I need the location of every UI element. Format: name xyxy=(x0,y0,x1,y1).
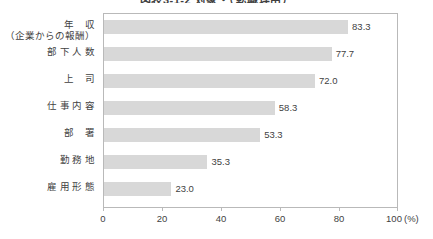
bar-value-shigoto-naiyo: 58.3 xyxy=(275,101,298,115)
bar-row: 83.3 xyxy=(104,20,397,34)
x-tick xyxy=(221,208,222,211)
x-tick xyxy=(103,208,104,211)
bar-chart-figure: 図表3-1-2 対象・（転職理由） 年収 （企業からの報酬） 部 下 人 数 上… xyxy=(0,0,433,239)
category-axis: 年収 （企業からの報酬） 部 下 人 数 上司 仕 事 内 容 部署 勤 務 地… xyxy=(0,13,99,208)
bar-row: 72.0 xyxy=(104,74,397,88)
category-label-2: 上司 xyxy=(64,73,95,84)
category-label-3: 仕 事 内 容 xyxy=(47,100,95,111)
bar-shigoto-naiyo xyxy=(104,101,275,115)
bar-value-kinmuchi: 35.3 xyxy=(207,155,230,169)
category-label-0-line1: 年収 xyxy=(64,19,95,30)
x-tick-label-20: 20 xyxy=(157,213,168,224)
x-tick-label-60: 60 xyxy=(275,213,286,224)
x-tick-label-80: 80 xyxy=(334,213,345,224)
x-tick xyxy=(162,208,163,211)
bar-value-busho: 53.3 xyxy=(260,128,283,142)
bar-value-koyo-keitai: 23.0 xyxy=(171,182,194,196)
bar-row: 77.7 xyxy=(104,47,397,61)
x-axis-unit-label: (%) xyxy=(404,213,419,224)
category-label-6: 雇 用 形 態 xyxy=(47,181,95,192)
bar-busho xyxy=(104,128,260,142)
x-tick-label-0: 0 xyxy=(100,213,105,224)
category-label-5: 勤 務 地 xyxy=(60,154,95,165)
category-label-4: 部署 xyxy=(64,127,95,138)
bar-koyo-keitai xyxy=(104,182,171,196)
chart-title: 図表3-1-2 対象・（転職理由） xyxy=(0,0,433,3)
bar-nenshu xyxy=(104,20,348,34)
bar-value-buka-ninzu: 77.7 xyxy=(332,47,355,61)
x-tick xyxy=(397,208,398,211)
x-tick xyxy=(280,208,281,211)
category-label-0-line2: （企業からの報酬） xyxy=(5,30,95,41)
bar-row: 58.3 xyxy=(104,101,397,115)
category-label-1: 部 下 人 数 xyxy=(47,46,95,57)
bar-value-joshi: 72.0 xyxy=(315,74,338,88)
bars-layer: 83.3 77.7 72.0 58.3 53.3 35.3 23.0 xyxy=(104,14,397,207)
category-label-0: 年収 （企業からの報酬） xyxy=(5,19,95,41)
bar-row: 53.3 xyxy=(104,128,397,142)
x-tick-label-40: 40 xyxy=(216,213,227,224)
bar-joshi xyxy=(104,74,315,88)
x-axis: 0 20 40 60 80 100 (%) xyxy=(103,208,398,232)
bar-value-nenshu: 83.3 xyxy=(348,20,371,34)
bar-row: 23.0 xyxy=(104,182,397,196)
bar-kinmuchi xyxy=(104,155,207,169)
x-tick xyxy=(339,208,340,211)
bar-buka-ninzu xyxy=(104,47,332,61)
bar-row: 35.3 xyxy=(104,155,397,169)
x-tick-label-100: 100 xyxy=(386,213,402,224)
